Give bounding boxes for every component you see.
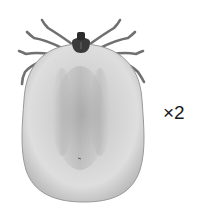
scale-label: ×2	[163, 102, 185, 124]
tick-head	[72, 32, 90, 53]
